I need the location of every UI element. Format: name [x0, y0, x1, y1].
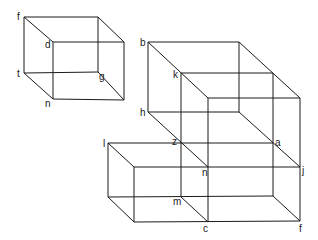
vertex-label: n: [202, 167, 208, 178]
vertex-label: a: [275, 137, 281, 148]
edge: [108, 196, 273, 197]
vertex-label: c: [203, 223, 208, 234]
edge: [24, 73, 53, 99]
vertex-label: f: [17, 11, 20, 22]
edge: [239, 112, 300, 167]
edge: [53, 99, 124, 100]
edge: [273, 196, 300, 221]
vertex-label: f: [299, 223, 302, 234]
vertex-label: l: [103, 138, 105, 149]
edge: [108, 197, 134, 222]
edge: [98, 17, 124, 42]
vertex-label: m: [173, 196, 181, 207]
vertex-labels: f d t g n b k h z a l n j m c f: [17, 11, 304, 234]
vertex-label: g: [99, 71, 105, 82]
vertex-label: b: [140, 37, 146, 48]
edge: [239, 42, 300, 98]
vertex-label: j: [301, 165, 304, 176]
vertex-label: n: [45, 98, 51, 109]
edge: [181, 197, 208, 222]
small-cube: [24, 17, 124, 100]
vertex-label: z: [172, 136, 177, 147]
edge: [148, 112, 208, 167]
large-cube: [148, 42, 300, 222]
edge: [108, 143, 134, 167]
vertex-label: h: [140, 107, 146, 118]
edge: [24, 72, 98, 73]
lower-box: [108, 143, 300, 222]
edge: [148, 42, 208, 98]
vertex-label: t: [17, 68, 20, 79]
cube-diagram: f d t g n b k h z a l n j m c f: [0, 0, 318, 240]
edge: [134, 221, 300, 222]
vertex-label: d: [45, 39, 51, 50]
